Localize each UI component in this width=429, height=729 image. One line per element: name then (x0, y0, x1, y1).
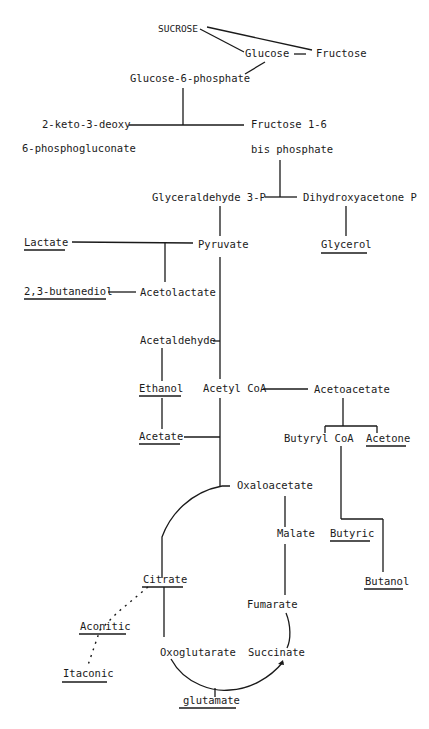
edge-oxoglutarate-succinate (171, 659, 283, 690)
node-ethanol: Ethanol (139, 382, 183, 394)
node-fructose: Fructose (316, 47, 367, 59)
node-fbp-line2: bis phosphate (251, 143, 333, 155)
node-oxaloacetate: Oxaloacetate (237, 479, 313, 491)
arrowhead-icon (278, 660, 284, 665)
node-citrate: Citrate (143, 573, 187, 585)
node-oxoglutarate: Oxoglutarate (160, 646, 236, 658)
metabolic-pathway-diagram: SUCROSE Glucose Fructose Glucose-6-phosp… (0, 0, 429, 729)
node-acetaldehyde: Acetaldehyde (140, 334, 216, 346)
node-succinate: Succinate (248, 646, 305, 658)
node-itaconic: Itaconic (63, 667, 114, 679)
node-pyruvate: Pyruvate (198, 238, 249, 250)
node-sucrose: SUCROSE (158, 23, 198, 34)
node-acetyl-coa: Acetyl CoA (203, 382, 267, 394)
edge-oxaloacetate-citrate (162, 486, 230, 578)
node-malate: Malate (277, 527, 315, 539)
node-glycerol: Glycerol (321, 238, 372, 250)
node-acetoacetate: Acetoacetate (314, 383, 390, 395)
node-lactate: Lactate (24, 236, 68, 248)
edge-fumarate-succinate (286, 613, 290, 648)
edge-sucrose-glucose (200, 29, 244, 52)
node-glucose-6-phosphate: Glucose-6-phosphate (130, 72, 250, 84)
node-acetone: Acetone (366, 432, 410, 444)
node-2-3-butanediol: 2,3-butanediol (24, 285, 113, 297)
node-glucose: Glucose (245, 47, 289, 59)
node-acetolactate: Acetolactate (140, 286, 216, 298)
node-butyryl-coa: Butyryl CoA (284, 432, 354, 444)
node-butyric: Butyric (330, 527, 374, 539)
node-glyceraldehyde-3p: Glyceraldehyde 3-P (152, 191, 266, 203)
node-aconitic: Aconitic (80, 620, 131, 632)
node-kdpg-line1: 2-keto-3-deoxy (42, 118, 131, 130)
node-glutamate: glutamate (183, 694, 240, 706)
node-dihydroxyacetone-p: Dihydroxyacetone P (303, 191, 417, 203)
node-acetate: Acetate (139, 430, 183, 442)
edge-pyruvate-lactate (72, 242, 193, 243)
node-butanol: Butanol (365, 575, 409, 587)
node-kdpg-line2: 6-phosphogluconate (22, 142, 136, 154)
node-fbp-line1: Fructose 1-6 (251, 118, 327, 130)
node-fumarate: Fumarate (247, 598, 298, 610)
